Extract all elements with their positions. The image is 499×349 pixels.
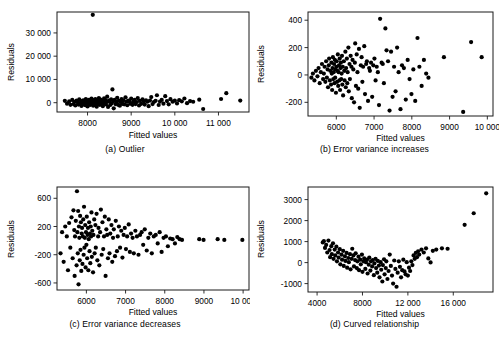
data-point <box>417 253 421 257</box>
panel-b-error-variance-increases: -2000200400600070008000900010 000Residua… <box>250 0 499 160</box>
data-point <box>167 102 171 106</box>
data-point <box>384 259 388 263</box>
data-point <box>327 248 331 252</box>
data-point <box>347 89 351 93</box>
data-point <box>345 81 349 85</box>
data-point <box>91 233 95 237</box>
data-point <box>216 237 220 241</box>
x-axis-title: Fitted values <box>376 309 425 319</box>
data-point <box>383 272 387 276</box>
data-point <box>349 54 353 58</box>
data-point <box>355 70 359 74</box>
y-tick-label: 3000 <box>284 195 303 205</box>
data-point <box>446 247 450 251</box>
data-point <box>388 253 392 257</box>
data-point <box>92 217 96 221</box>
data-point <box>81 217 85 221</box>
data-point <box>417 65 421 69</box>
data-point <box>73 234 77 238</box>
panel-b-caption: (b) Error variance increases <box>250 144 499 154</box>
data-point <box>354 251 358 255</box>
x-axis-title: Fitted values <box>129 307 178 317</box>
data-point <box>143 227 147 231</box>
data-point <box>78 258 82 262</box>
y-tick-label: 600 <box>37 193 51 203</box>
y-tick-label: 0 <box>46 98 51 108</box>
data-point <box>422 58 426 62</box>
data-point <box>93 223 97 227</box>
x-tick-label: 8000 <box>156 296 175 306</box>
data-point <box>158 230 162 234</box>
data-point <box>385 277 389 281</box>
data-point <box>108 231 112 235</box>
data-point <box>397 70 401 74</box>
data-point <box>91 13 95 17</box>
data-point <box>76 282 80 286</box>
data-point <box>85 215 89 219</box>
data-point <box>340 54 344 58</box>
data-point <box>173 241 177 245</box>
data-point <box>405 260 409 264</box>
data-point <box>316 66 320 70</box>
data-point <box>191 100 195 104</box>
data-point <box>133 229 137 233</box>
data-point <box>141 243 145 247</box>
data-point <box>315 74 319 78</box>
x-tick-label: 8000 <box>403 122 422 132</box>
panel-a-caption: (a) Outlier <box>0 144 250 154</box>
data-point <box>98 230 102 234</box>
data-point <box>424 71 428 75</box>
data-point <box>398 107 402 111</box>
data-point <box>74 219 78 223</box>
data-point <box>160 98 164 102</box>
data-point <box>461 110 465 114</box>
data-point <box>110 260 114 264</box>
data-point <box>410 263 414 267</box>
data-point <box>90 255 94 259</box>
data-point <box>222 238 226 242</box>
data-point <box>390 95 394 99</box>
x-tick-label: 9000 <box>440 122 459 132</box>
data-point <box>95 258 99 262</box>
x-tick-label: 9000 <box>122 118 141 128</box>
data-point <box>112 227 116 231</box>
data-point <box>149 95 153 99</box>
panel-b-plot: -2000200400600070008000900010 000Residua… <box>250 0 499 160</box>
x-axis-title: Fitted values <box>376 133 425 143</box>
data-point <box>409 92 413 96</box>
data-point <box>387 108 391 112</box>
data-point <box>180 238 184 242</box>
data-point <box>156 241 160 245</box>
data-point <box>347 260 351 264</box>
data-point <box>115 249 119 253</box>
data-point <box>71 256 75 260</box>
data-point <box>426 256 430 260</box>
data-point <box>60 230 64 234</box>
data-point <box>82 205 86 209</box>
data-point <box>350 96 354 100</box>
y-tick-label: 0 <box>297 258 302 268</box>
data-point <box>353 41 357 45</box>
data-point <box>440 246 444 250</box>
data-point <box>107 217 111 221</box>
data-point <box>100 253 104 257</box>
data-point <box>406 58 410 62</box>
data-point <box>333 76 337 80</box>
data-point <box>404 97 408 101</box>
data-point <box>351 67 355 71</box>
data-point <box>127 222 131 226</box>
data-point <box>75 230 79 234</box>
data-point <box>201 107 205 111</box>
data-point <box>96 226 100 230</box>
x-axis-title: Fitted values <box>129 130 178 140</box>
data-point <box>69 215 73 219</box>
data-point <box>391 282 395 286</box>
data-point <box>117 224 121 228</box>
data-point <box>415 36 419 40</box>
data-point <box>99 207 103 211</box>
data-point <box>407 77 411 81</box>
data-point <box>336 84 340 88</box>
data-point <box>106 256 110 260</box>
y-axis-title: Residuals <box>256 45 266 83</box>
data-point <box>420 84 424 88</box>
